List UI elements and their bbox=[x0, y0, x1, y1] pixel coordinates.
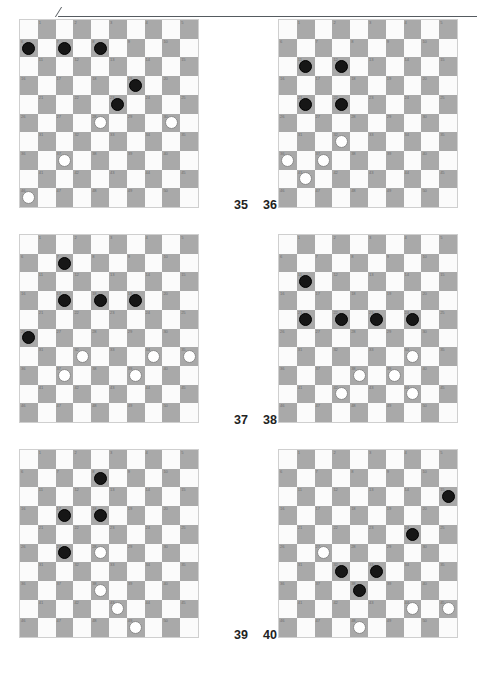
white-piece[interactable] bbox=[165, 116, 178, 129]
board-square-47[interactable]: 47 bbox=[56, 403, 74, 422]
board-square-43[interactable]: 43 bbox=[109, 385, 127, 404]
board-square-light[interactable] bbox=[439, 39, 457, 58]
board-square-19[interactable]: 19 bbox=[127, 76, 145, 95]
board-square-3[interactable]: 3 bbox=[109, 450, 127, 469]
board-square-light[interactable] bbox=[404, 506, 422, 525]
board-square-35[interactable]: 35 bbox=[180, 347, 198, 366]
board-square-3[interactable]: 3 bbox=[109, 235, 127, 254]
board-square-26[interactable]: 26 bbox=[20, 114, 38, 133]
board-square-23[interactable]: 23 bbox=[109, 95, 127, 114]
board-square-20[interactable]: 20 bbox=[421, 506, 439, 525]
board-square-3[interactable]: 3 bbox=[109, 20, 127, 39]
black-piece[interactable] bbox=[58, 294, 71, 307]
board-square-43[interactable]: 43 bbox=[368, 170, 386, 189]
board-square-light[interactable] bbox=[162, 385, 180, 404]
board-square-light[interactable] bbox=[109, 618, 127, 637]
board-square-23[interactable]: 23 bbox=[368, 310, 386, 329]
board-square-light[interactable] bbox=[332, 506, 350, 525]
board-square-31[interactable]: 31 bbox=[297, 347, 315, 366]
board-square-light[interactable] bbox=[56, 132, 74, 151]
board-square-13[interactable]: 13 bbox=[368, 487, 386, 506]
board-square-7[interactable]: 7 bbox=[56, 254, 74, 273]
white-piece[interactable] bbox=[317, 154, 330, 167]
board-square-light[interactable] bbox=[297, 254, 315, 273]
board-square-9[interactable]: 9 bbox=[127, 39, 145, 58]
board-square-48[interactable]: 48 bbox=[350, 403, 368, 422]
board-square-light[interactable] bbox=[73, 151, 91, 170]
board-square-2[interactable]: 2 bbox=[332, 450, 350, 469]
white-piece[interactable] bbox=[111, 602, 124, 615]
board-square-6[interactable]: 6 bbox=[279, 39, 297, 58]
board-square-34[interactable]: 34 bbox=[404, 132, 422, 151]
board-square-41[interactable]: 41 bbox=[297, 600, 315, 619]
board-square-light[interactable] bbox=[109, 254, 127, 273]
board-square-light[interactable] bbox=[127, 170, 145, 189]
board-square-16[interactable]: 16 bbox=[279, 291, 297, 310]
board-square-34[interactable]: 34 bbox=[145, 562, 163, 581]
board-square-light[interactable] bbox=[73, 329, 91, 348]
board-square-7[interactable]: 7 bbox=[315, 254, 333, 273]
board-square-29[interactable]: 29 bbox=[127, 544, 145, 563]
board-square-34[interactable]: 34 bbox=[145, 132, 163, 151]
board-square-light[interactable] bbox=[404, 76, 422, 95]
board-square-light[interactable] bbox=[315, 20, 333, 39]
board-square-29[interactable]: 29 bbox=[386, 329, 404, 348]
board-square-light[interactable] bbox=[315, 525, 333, 544]
board-square-26[interactable]: 26 bbox=[279, 114, 297, 133]
board-square-25[interactable]: 25 bbox=[439, 95, 457, 114]
board-square-33[interactable]: 33 bbox=[368, 347, 386, 366]
board-square-light[interactable] bbox=[145, 506, 163, 525]
board-square-light[interactable] bbox=[38, 581, 56, 600]
board-square-light[interactable] bbox=[91, 235, 109, 254]
board-square-light[interactable] bbox=[350, 57, 368, 76]
board-square-4[interactable]: 4 bbox=[145, 450, 163, 469]
board-square-light[interactable] bbox=[421, 235, 439, 254]
board-square-17[interactable]: 17 bbox=[56, 76, 74, 95]
board-square-20[interactable]: 20 bbox=[421, 291, 439, 310]
board-square-light[interactable] bbox=[127, 235, 145, 254]
board-square-45[interactable]: 45 bbox=[180, 600, 198, 619]
board-square-22[interactable]: 22 bbox=[332, 525, 350, 544]
board-square-light[interactable] bbox=[421, 347, 439, 366]
board-square-7[interactable]: 7 bbox=[56, 39, 74, 58]
board-square-25[interactable]: 25 bbox=[439, 525, 457, 544]
board-square-42[interactable]: 42 bbox=[332, 170, 350, 189]
board-square-24[interactable]: 24 bbox=[145, 310, 163, 329]
black-piece[interactable] bbox=[299, 275, 312, 288]
board-square-light[interactable] bbox=[91, 20, 109, 39]
board-square-45[interactable]: 45 bbox=[439, 600, 457, 619]
draughts-board[interactable]: 1234567891011121314151617181920212223242… bbox=[20, 235, 198, 422]
white-piece[interactable] bbox=[129, 621, 142, 634]
board-square-light[interactable] bbox=[73, 581, 91, 600]
board-square-40[interactable]: 40 bbox=[162, 581, 180, 600]
board-square-14[interactable]: 14 bbox=[404, 272, 422, 291]
board-square-light[interactable] bbox=[404, 581, 422, 600]
board-square-17[interactable]: 17 bbox=[315, 76, 333, 95]
board-square-14[interactable]: 14 bbox=[145, 57, 163, 76]
board-square-light[interactable] bbox=[439, 581, 457, 600]
board-square-light[interactable] bbox=[127, 525, 145, 544]
board-square-49[interactable]: 49 bbox=[127, 403, 145, 422]
board-square-light[interactable] bbox=[20, 450, 38, 469]
board-square-light[interactable] bbox=[404, 39, 422, 58]
board-square-24[interactable]: 24 bbox=[404, 95, 422, 114]
board-square-light[interactable] bbox=[368, 188, 386, 207]
black-piece[interactable] bbox=[111, 98, 124, 111]
board-square-47[interactable]: 47 bbox=[315, 188, 333, 207]
board-square-light[interactable] bbox=[332, 469, 350, 488]
board-square-light[interactable] bbox=[315, 170, 333, 189]
board-square-36[interactable]: 36 bbox=[20, 151, 38, 170]
white-piece[interactable] bbox=[58, 154, 71, 167]
board-square-light[interactable] bbox=[109, 114, 127, 133]
board-square-6[interactable]: 6 bbox=[279, 254, 297, 273]
board-square-light[interactable] bbox=[73, 403, 91, 422]
board-square-6[interactable]: 6 bbox=[20, 254, 38, 273]
board-square-light[interactable] bbox=[368, 291, 386, 310]
board-square-36[interactable]: 36 bbox=[279, 366, 297, 385]
board-square-49[interactable]: 49 bbox=[386, 618, 404, 637]
black-piece[interactable] bbox=[58, 509, 71, 522]
board-square-17[interactable]: 17 bbox=[315, 506, 333, 525]
board-square-36[interactable]: 36 bbox=[20, 366, 38, 385]
board-square-light[interactable] bbox=[404, 618, 422, 637]
board-square-8[interactable]: 8 bbox=[350, 469, 368, 488]
